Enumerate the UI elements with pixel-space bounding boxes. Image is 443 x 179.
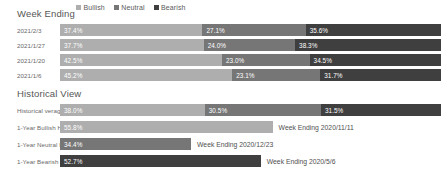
bar-area-historical-1: 38.0%30.5%31.5% bbox=[60, 104, 443, 116]
bar-area-historical-3: 34.4%Week Ending 2020/12/23 bbox=[60, 138, 443, 150]
legend-item-bearish[interactable]: Bearish bbox=[154, 4, 186, 11]
chart-row-week-4: 2021/1/645.2%23.1%31.7% bbox=[0, 69, 443, 81]
bar-annotation-historical-2: Week Ending 2020/11/11 bbox=[273, 121, 354, 133]
bar-segment-neutral-week-1[interactable]: 27.1% bbox=[202, 24, 305, 36]
bar-segment-neutral-historical-3[interactable]: 34.4% bbox=[60, 138, 191, 150]
bar-segment-bullish-week-4[interactable]: 45.2% bbox=[60, 69, 232, 81]
legend-item-neutral[interactable]: Neutral bbox=[114, 4, 145, 11]
legend-swatch-bearish-icon bbox=[154, 5, 159, 10]
bar-segment-neutral-week-2[interactable]: 24.0% bbox=[204, 39, 295, 51]
bar-segment-neutral-week-4[interactable]: 23.1% bbox=[232, 69, 320, 81]
bar-annotation-historical-3: Week Ending 2020/12/23 bbox=[191, 138, 273, 150]
bar-area-week-1: 37.4%27.1%35.6% bbox=[60, 24, 443, 36]
legend-item-bullish[interactable]: Bullish bbox=[76, 4, 105, 11]
bar-area-historical-2: 55.8%Week Ending 2020/11/11 bbox=[60, 121, 443, 133]
bar-area-week-3: 42.5%23.0%34.5% bbox=[60, 54, 443, 66]
bar-segment-bullish-week-3[interactable]: 42.5% bbox=[60, 54, 222, 66]
row-label-historical-3: 1-Year Neutral High bbox=[0, 141, 60, 148]
bar-area-historical-4: 52.7%Week Ending 2020/5/6 bbox=[60, 155, 443, 167]
chart-row-historical-1: Historical verages38.0%30.5%31.5% bbox=[0, 104, 443, 116]
bar-segment-bullish-historical-2[interactable]: 55.8% bbox=[60, 121, 273, 133]
bar-segment-neutral-week-3[interactable]: 23.0% bbox=[222, 54, 310, 66]
row-label-historical-4: 1-Year Bearish High bbox=[0, 158, 60, 165]
bar-area-week-4: 45.2%23.1%31.7% bbox=[60, 69, 443, 81]
bar-segment-bearish-week-3[interactable]: 34.5% bbox=[310, 54, 441, 66]
row-label-historical-1: Historical verages bbox=[0, 107, 60, 114]
row-label-week-4: 2021/1/6 bbox=[0, 72, 60, 79]
bar-segment-neutral-historical-1[interactable]: 30.5% bbox=[205, 104, 321, 116]
legend-swatch-neutral-icon bbox=[114, 5, 119, 10]
row-label-week-2: 2021/1/27 bbox=[0, 42, 60, 49]
section-title-historical-view: Historical View bbox=[17, 88, 81, 99]
section-title-week-ending: Week Ending bbox=[17, 8, 75, 19]
bar-annotation-historical-4: Week Ending 2020/5/6 bbox=[261, 155, 336, 167]
bar-segment-bearish-week-1[interactable]: 35.6% bbox=[306, 24, 442, 36]
chart-legend: Bullish Neutral Bearish bbox=[76, 4, 186, 11]
bar-segment-bearish-historical-4[interactable]: 52.7% bbox=[60, 155, 261, 167]
legend-swatch-bullish-icon bbox=[76, 5, 81, 10]
bar-segment-bullish-historical-1[interactable]: 38.0% bbox=[60, 104, 205, 116]
row-label-week-1: 2021/2/3 bbox=[0, 27, 60, 34]
bar-segment-bearish-week-4[interactable]: 31.7% bbox=[320, 69, 441, 81]
bar-segment-bearish-historical-1[interactable]: 31.5% bbox=[321, 104, 441, 116]
chart-row-historical-2: 1-Year Bullish High55.8%Week Ending 2020… bbox=[0, 121, 443, 133]
chart-row-week-1: 2021/2/337.4%27.1%35.6% bbox=[0, 24, 443, 36]
chart-row-historical-4: 1-Year Bearish High52.7%Week Ending 2020… bbox=[0, 155, 443, 167]
row-label-historical-2: 1-Year Bullish High bbox=[0, 124, 60, 131]
row-label-week-3: 2021/1/20 bbox=[0, 57, 60, 64]
bar-area-week-2: 37.7%24.0%38.3% bbox=[60, 39, 443, 51]
legend-label-bullish: Bullish bbox=[84, 4, 105, 11]
bar-segment-bullish-week-2[interactable]: 37.7% bbox=[60, 39, 204, 51]
bar-segment-bullish-week-1[interactable]: 37.4% bbox=[60, 24, 202, 36]
chart-row-week-3: 2021/1/2042.5%23.0%34.5% bbox=[0, 54, 443, 66]
chart-row-historical-3: 1-Year Neutral High34.4%Week Ending 2020… bbox=[0, 138, 443, 150]
legend-label-neutral: Neutral bbox=[121, 4, 144, 11]
bar-segment-bearish-week-2[interactable]: 38.3% bbox=[295, 39, 441, 51]
sentiment-chart: Week Ending Bullish Neutral Bearish Hist… bbox=[0, 0, 443, 179]
legend-label-bearish: Bearish bbox=[161, 4, 185, 11]
chart-row-week-2: 2021/1/2737.7%24.0%38.3% bbox=[0, 39, 443, 51]
